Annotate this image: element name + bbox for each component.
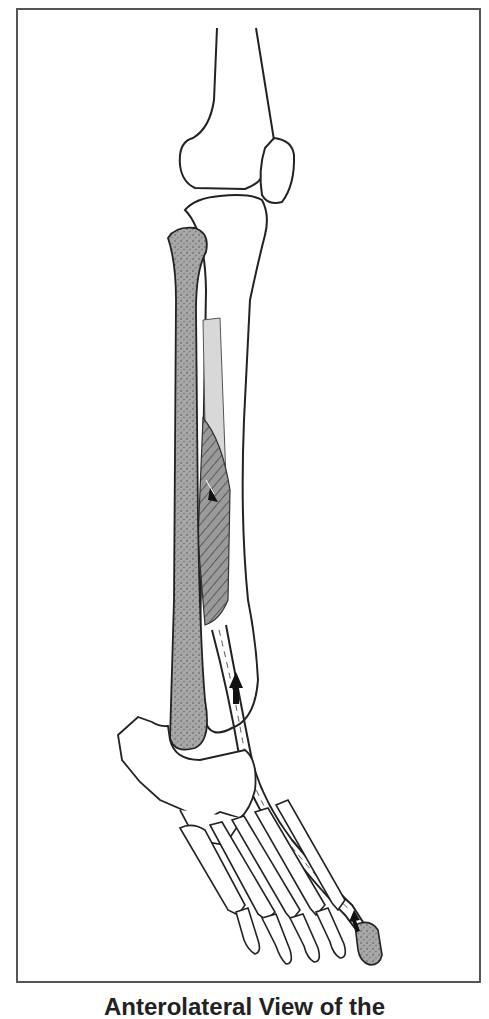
femur-bone [180, 28, 274, 189]
patella-bone [261, 138, 295, 203]
figure-caption: Anterolateral View of the [0, 993, 489, 1019]
leg-foot-illustration [0, 0, 489, 985]
